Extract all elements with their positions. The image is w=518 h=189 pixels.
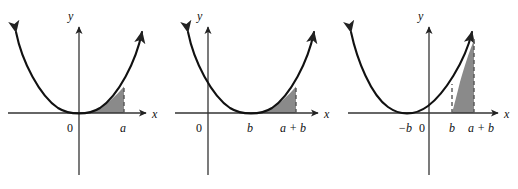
tick-label-origin: 0	[196, 121, 202, 135]
three-parabola-figure: y x 0 a y x 0	[0, 0, 518, 189]
tick-label-vertex-negative-b: −b	[398, 121, 412, 135]
tick-label-upper-limit-a: a	[120, 121, 126, 135]
tick-label-upper-limit-a-plus-b: a + b	[280, 121, 306, 135]
x-axis-label: x	[323, 107, 330, 121]
x-axis-label: x	[503, 107, 510, 121]
panel-3-canvas: y x −b 0 b a + b	[340, 0, 518, 189]
tick-label-lower-limit-b: b	[449, 121, 455, 135]
tick-label-upper-limit-a-plus-b: a + b	[468, 121, 494, 135]
panel-2-canvas: y x 0 b a + b	[167, 0, 340, 189]
y-axis-label: y	[196, 9, 203, 23]
tick-label-origin: 0	[419, 121, 425, 135]
tick-label-origin: 0	[67, 121, 73, 135]
parabola-curve	[351, 32, 472, 113]
tick-label-vertex-b: b	[247, 121, 253, 135]
panel-parabola-vertex-at-origin: y x 0 a	[0, 0, 173, 189]
panel-1-canvas: y x 0 a	[0, 0, 173, 189]
panel-parabola-vertex-at-b: y x 0 b a + b	[167, 0, 340, 189]
shaded-area-b-to-a-plus-b	[452, 40, 474, 113]
y-axis-label: y	[67, 9, 74, 23]
x-axis-label: x	[151, 107, 158, 121]
y-axis-label: y	[417, 9, 424, 23]
panel-parabola-vertex-at-negative-b: y x −b 0 b a + b	[340, 0, 518, 189]
